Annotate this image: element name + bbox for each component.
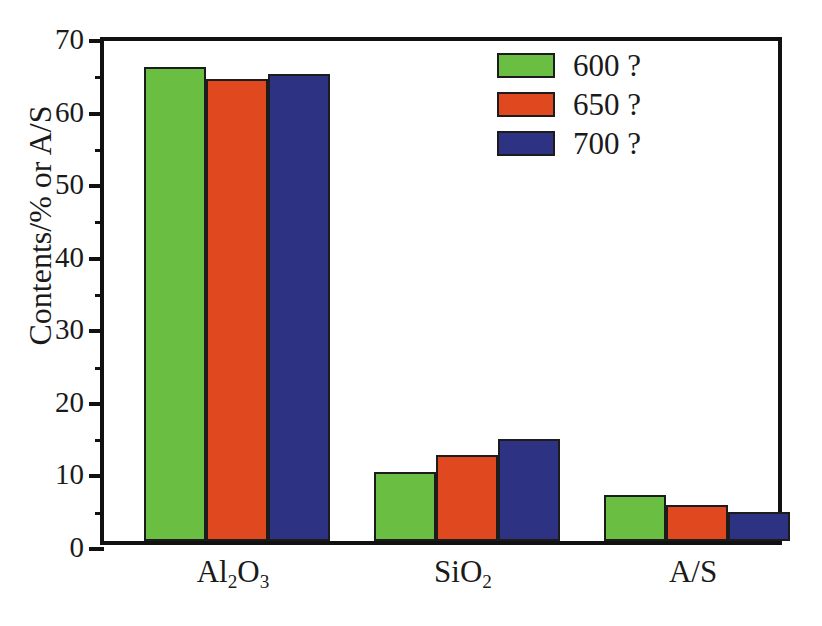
legend-entry: 650 ? [497,87,641,121]
y-axis-tick-minor [95,221,104,224]
bar-as-1 [666,505,728,541]
y-axis-tick-major [89,402,104,406]
y-axis-tick-minor [95,294,104,297]
y-axis-tick-major [89,547,104,551]
bar-as-0 [604,495,666,541]
bar-al2o3-2 [268,74,330,541]
y-axis-tick-minor [95,512,104,515]
legend-swatch-icon [497,53,555,78]
bar-sio2-1 [436,455,498,541]
legend-swatch-icon [497,92,555,117]
y-axis-tick-major [89,329,104,333]
legend-label: 700 ? [573,128,641,159]
y-axis-tick-minor [95,149,104,152]
bar-chart: 010203040506070 Al2O3SiO2A/S Contents/% … [0,0,822,626]
legend-label: 600 ? [573,50,641,81]
y-axis-tick-minor [95,367,104,370]
y-axis-tick-label: 0 [9,533,84,562]
y-axis-tick-major [89,184,104,188]
y-axis-tick-major [89,112,104,116]
y-axis-tick-minor [95,76,104,79]
bar-sio2-0 [374,472,436,541]
legend-entry: 600 ? [497,48,641,82]
x-axis-label-al2o3: Al2O3 [133,556,333,587]
y-axis-tick-major [89,39,104,43]
legend-label: 650 ? [573,89,641,120]
bar-as-2 [728,512,790,541]
x-axis-label-as: A/S [593,556,793,587]
y-axis-title: Contents/% or A/S [22,0,59,526]
y-axis-tick-minor [95,439,104,442]
bar-al2o3-0 [144,67,206,541]
legend-swatch-icon [497,131,555,156]
plot-frame: 010203040506070 [100,37,782,545]
x-axis-label-sio2: SiO2 [363,556,563,587]
chart-legend: 600 ?650 ?700 ? [497,48,641,165]
bar-al2o3-1 [206,79,268,541]
y-axis-tick-major [89,474,104,478]
bar-sio2-2 [498,439,560,541]
legend-entry: 700 ? [497,126,641,160]
y-axis-tick-major [89,257,104,261]
